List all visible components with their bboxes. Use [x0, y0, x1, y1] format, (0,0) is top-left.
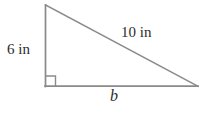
base-label: b	[110, 88, 118, 104]
triangle-graphic	[0, 0, 207, 113]
right-triangle-figure: 6 in 10 in b	[0, 0, 207, 113]
right-angle-marker-icon	[46, 76, 56, 86]
hypotenuse-label: 10 in	[121, 25, 151, 40]
hypotenuse-line	[46, 5, 199, 86]
vertical-leg-label: 6 in	[7, 42, 30, 57]
